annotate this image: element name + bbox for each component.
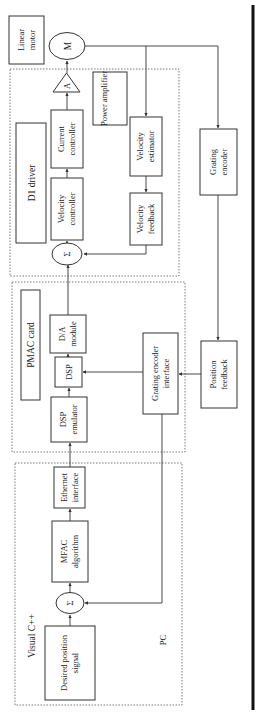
pc-summing-junction: Σ <box>56 593 84 614</box>
da-module-block: D/A module <box>50 315 86 353</box>
svg-text:Linear: Linear <box>16 29 26 51</box>
driver-summing-junction: Σ <box>52 243 82 265</box>
grating-encoder-block: Grating encoder <box>200 129 237 195</box>
svg-text:Visual C++: Visual C++ <box>27 614 37 658</box>
svg-text:signal: signal <box>70 652 80 673</box>
svg-text:Power amplifier: Power amplifier <box>99 71 109 126</box>
svg-text:D/A: D/A <box>57 326 67 342</box>
svg-text:encoder: encoder <box>219 148 229 175</box>
svg-text:M: M <box>63 41 73 50</box>
svg-text:estimator: estimator <box>146 131 156 163</box>
svg-text:D1 driver: D1 driver <box>27 164 37 202</box>
power-amplifier-label-box: Power amplifier <box>93 71 127 126</box>
svg-text:Desired position: Desired position <box>59 634 69 691</box>
svg-text:Grating encoder: Grating encoder <box>150 346 160 401</box>
d1-driver-label-box: D1 driver <box>16 123 46 243</box>
svg-text:Velocity: Velocity <box>135 204 145 233</box>
pmac-card-label-box: PMAC card <box>21 290 40 400</box>
svg-text:interface: interface <box>161 358 171 388</box>
svg-text:controller: controller <box>67 122 77 155</box>
svg-text:Ethernet: Ethernet <box>59 472 69 501</box>
velocity-feedback-block: Velocity feedback <box>130 193 162 245</box>
dsp-emulator-block: DSP emulator <box>51 397 87 442</box>
linear-motor-label-box: Linear motor <box>9 16 44 64</box>
wire-velfb-to-sum <box>84 245 146 254</box>
svg-text:Grating: Grating <box>208 148 218 175</box>
svg-text:Σ: Σ <box>62 251 72 256</box>
visual-cpp-label: Visual C++ <box>27 614 37 658</box>
svg-text:feedback: feedback <box>219 358 229 389</box>
pc-group-container <box>15 463 182 705</box>
svg-text:motor: motor <box>27 30 37 50</box>
svg-text:DSP: DSP <box>58 411 68 427</box>
svg-text:interface: interface <box>70 472 80 502</box>
svg-text:algorithm: algorithm <box>70 535 80 568</box>
svg-text:MFAC: MFAC <box>59 539 69 563</box>
svg-text:Σ: Σ <box>65 600 75 605</box>
desired-position-signal-block: Desired position signal <box>45 626 95 700</box>
motor-node: M <box>49 33 85 60</box>
pc-label: PC <box>158 634 168 645</box>
svg-text:Velocity: Velocity <box>135 132 145 161</box>
svg-text:A: A <box>62 82 72 89</box>
svg-text:PC: PC <box>158 634 168 645</box>
svg-text:Current: Current <box>56 125 66 152</box>
svg-text:emulator: emulator <box>69 404 79 434</box>
current-controller-block: Current controller <box>51 110 83 168</box>
velocity-controller-block: Velocity controller <box>51 178 83 240</box>
svg-text:PMAC card: PMAC card <box>26 322 36 368</box>
amplifier-triangle: A <box>53 73 80 92</box>
velocity-estimator-block: Velocity estimator <box>130 117 162 176</box>
position-feedback-block: Position feedback <box>201 341 237 408</box>
wire-motor-to-encoder <box>146 46 218 128</box>
grating-encoder-interface-block: Grating encoder interface <box>143 333 178 414</box>
wire-interface-to-pcsum <box>85 414 162 603</box>
svg-text:module: module <box>68 321 78 347</box>
dsp-block: DSP <box>55 357 82 387</box>
svg-text:feedback: feedback <box>146 203 156 234</box>
svg-text:controller: controller <box>67 192 77 225</box>
mfac-algorithm-block: MFAC algorithm <box>52 521 88 582</box>
ethernet-interface-block: Ethernet interface <box>54 467 85 508</box>
control-system-block-diagram: Linear motor M A Power amplifier Current… <box>0 0 263 715</box>
svg-text:Velocity: Velocity <box>56 194 66 223</box>
svg-text:Position: Position <box>208 360 218 389</box>
svg-text:DSP: DSP <box>64 364 74 380</box>
